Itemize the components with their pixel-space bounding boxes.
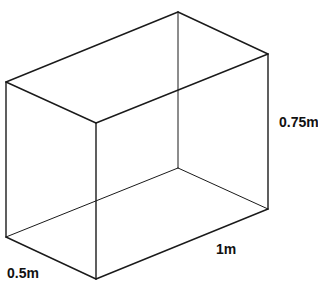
prism-diagram bbox=[0, 0, 318, 290]
edge-top-front-left bbox=[6, 82, 96, 123]
edge-bottom-front-right bbox=[96, 209, 268, 279]
edge-top-back-left bbox=[6, 12, 178, 82]
edge-top-back-right bbox=[178, 12, 268, 54]
height-label: 0.75m bbox=[279, 115, 318, 129]
edge-top-front-right bbox=[96, 54, 268, 123]
edge-bottom-back-right bbox=[178, 168, 268, 209]
edge-bottom-back-left bbox=[6, 168, 178, 237]
length-label: 1m bbox=[216, 242, 236, 256]
width-label: 0.5m bbox=[7, 266, 39, 280]
